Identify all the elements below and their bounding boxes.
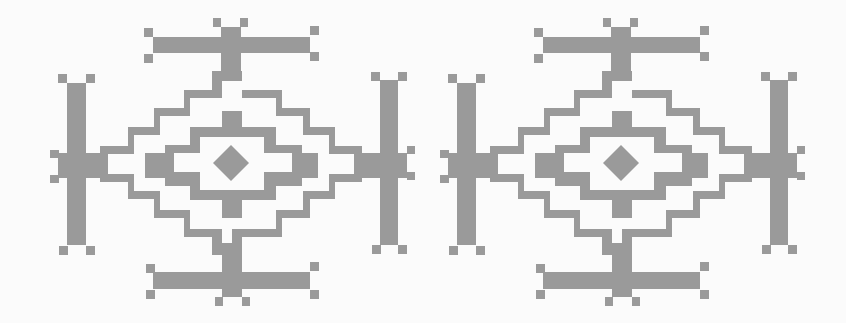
- motif-left: [50, 18, 415, 306]
- pattern-canvas: [0, 0, 846, 323]
- motif-right: [440, 18, 805, 306]
- geometric-pattern: [0, 0, 846, 323]
